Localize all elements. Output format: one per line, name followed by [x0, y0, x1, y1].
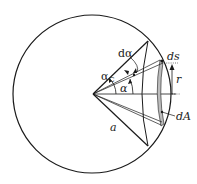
label-a: a [110, 121, 117, 134]
ds-point [161, 60, 164, 63]
label-dA: dA [176, 110, 191, 123]
label-d-alpha: dα [118, 47, 133, 60]
sphere-cone-diagram: dα αC α ds r dA a [0, 0, 197, 184]
dA-point [161, 111, 163, 113]
ring-element-dA [157, 60, 164, 126]
ray-lower-2 [93, 94, 162, 122]
r-arrowhead [170, 64, 175, 70]
diagram-canvas: dα αC α ds r dA a [0, 0, 197, 184]
label-alpha-c: αC [101, 70, 115, 84]
label-alpha: α [120, 82, 128, 95]
label-r: r [176, 73, 182, 86]
d-alpha-arrow-lower [133, 68, 137, 73]
cone-lower-edge [93, 94, 148, 146]
cone-base-arc [142, 41, 148, 146]
label-ds: ds [167, 50, 180, 63]
d-alpha-dot [133, 74, 135, 76]
d-alpha-arrow-upper [124, 70, 129, 75]
ray-lower-1 [93, 94, 161, 125]
